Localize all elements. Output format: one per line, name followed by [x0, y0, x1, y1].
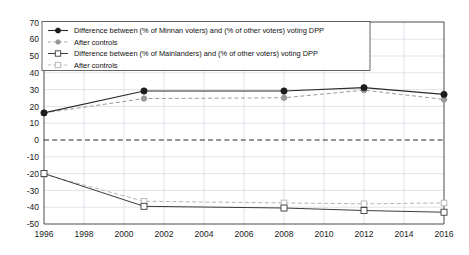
data-point-marker — [361, 84, 367, 90]
legend-entry-mainlanders: Difference between (% of Mainlanders) an… — [48, 49, 318, 58]
y-tick-label: 50 — [30, 51, 40, 61]
legend-label: Difference between (% of Minnan voters) … — [74, 26, 324, 35]
open-square-icon — [55, 62, 60, 67]
filled-circle-icon — [55, 28, 60, 33]
x-tick-label: 2008 — [275, 229, 294, 239]
data-point-marker — [141, 88, 147, 94]
y-tick-label: 60 — [30, 34, 40, 44]
line-chart: 70 60 50 40 30 20 10 0 -10 -20 -30 -40 -… — [0, 0, 469, 255]
x-tick-label: 2010 — [315, 229, 334, 239]
y-tick-label: -50 — [27, 219, 40, 229]
data-point-marker — [281, 88, 287, 94]
data-point-marker — [41, 171, 47, 177]
x-tick-label: 1998 — [75, 229, 94, 239]
legend-label: After controls — [74, 38, 118, 47]
data-point-marker — [361, 201, 367, 207]
data-point-marker — [441, 209, 447, 215]
y-tick-label: 70 — [30, 18, 40, 28]
y-tick-label: 40 — [30, 68, 40, 78]
data-point-marker — [441, 91, 447, 97]
data-point-marker — [281, 205, 287, 211]
y-tick-label: 0 — [34, 135, 39, 145]
x-tick-label: 2000 — [115, 229, 134, 239]
chart-container: 70 60 50 40 30 20 10 0 -10 -20 -30 -40 -… — [0, 0, 469, 255]
grey-circle-icon — [56, 40, 61, 45]
x-tick-label: 1996 — [35, 229, 54, 239]
data-point-marker — [41, 110, 47, 116]
chart-legend: Difference between (% of Minnan voters) … — [42, 22, 370, 71]
y-tick-label: -20 — [27, 169, 40, 179]
legend-entry-minnan: Difference between (% of Minnan voters) … — [48, 26, 324, 35]
legend-label: After controls — [74, 61, 118, 70]
data-point-marker — [361, 208, 367, 214]
open-square-icon — [55, 51, 60, 56]
data-point-marker — [141, 96, 147, 102]
x-tick-label: 2006 — [235, 229, 254, 239]
y-axis-tick-labels: 70 60 50 40 30 20 10 0 -10 -20 -30 -40 -… — [27, 18, 40, 230]
y-tick-label: -30 — [27, 186, 40, 196]
data-point-marker — [281, 95, 287, 101]
y-tick-label: 30 — [30, 85, 40, 95]
y-tick-label: -40 — [27, 202, 40, 212]
data-point-marker — [441, 200, 447, 206]
x-tick-label: 2016 — [435, 229, 454, 239]
y-tick-label: -10 — [27, 152, 40, 162]
x-tick-label: 2012 — [355, 229, 374, 239]
y-tick-label: 10 — [30, 118, 40, 128]
x-tick-label: 2004 — [195, 229, 214, 239]
x-tick-label: 2014 — [395, 229, 414, 239]
legend-label: Difference between (% of Mainlanders) an… — [74, 49, 318, 58]
x-axis-tick-labels: 1996 1998 2000 2002 2004 2006 2008 2010 … — [35, 229, 454, 239]
y-tick-label: 20 — [30, 102, 40, 112]
data-point-marker — [141, 203, 147, 209]
x-tick-label: 2002 — [155, 229, 174, 239]
